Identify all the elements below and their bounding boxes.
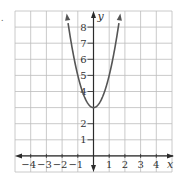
curve-right-arrow-icon	[117, 13, 122, 20]
y-tick-label: 7	[80, 38, 86, 49]
x-axis-left-arrow-icon	[15, 153, 22, 158]
y-axis-up-arrow-icon	[91, 11, 96, 18]
y-tick-label: 6	[80, 54, 86, 65]
x-tick-label: 4	[153, 159, 159, 170]
y-tick-label: 5	[80, 70, 86, 81]
x-tick-label: 1	[106, 159, 112, 170]
x-axis-label: x	[167, 158, 174, 171]
y-tick-label: 8	[80, 22, 86, 33]
x-tick-label: 3	[137, 159, 143, 170]
y-axis-label: y	[97, 10, 105, 23]
parabola-graph: −4−3−2−112341245678 x y	[0, 0, 178, 181]
x-tick-label: −4	[21, 159, 36, 170]
x-tick-label: −1	[68, 159, 83, 170]
axis-ticks: −4−3−2−112341245678	[21, 22, 159, 170]
x-tick-label: −3	[37, 159, 52, 170]
y-axis-down-arrow-icon	[91, 165, 96, 172]
x-tick-label: −2	[53, 159, 68, 170]
x-tick-label: 2	[122, 159, 128, 170]
y-tick-label: 2	[80, 118, 86, 129]
y-tick-label: 1	[80, 134, 86, 145]
curve-left-arrow-icon	[65, 13, 70, 20]
